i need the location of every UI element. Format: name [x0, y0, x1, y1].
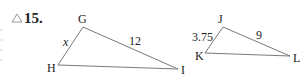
- vertex-label-J: J: [218, 13, 223, 25]
- vertex-label-G: G: [78, 13, 87, 25]
- vertex-label-H: H: [47, 62, 56, 74]
- triangle-JKL: [205, 27, 290, 56]
- side-label-JK: 3.75: [192, 31, 213, 43]
- side-label-JL: 9: [256, 29, 262, 41]
- vertex-label-I: I: [181, 64, 185, 75]
- triangle-GHI: [58, 27, 178, 69]
- vertex-label-L: L: [293, 52, 300, 64]
- vertex-label-K: K: [195, 50, 204, 62]
- side-label-GH: x: [63, 36, 68, 48]
- side-label-GI: 12: [129, 35, 141, 47]
